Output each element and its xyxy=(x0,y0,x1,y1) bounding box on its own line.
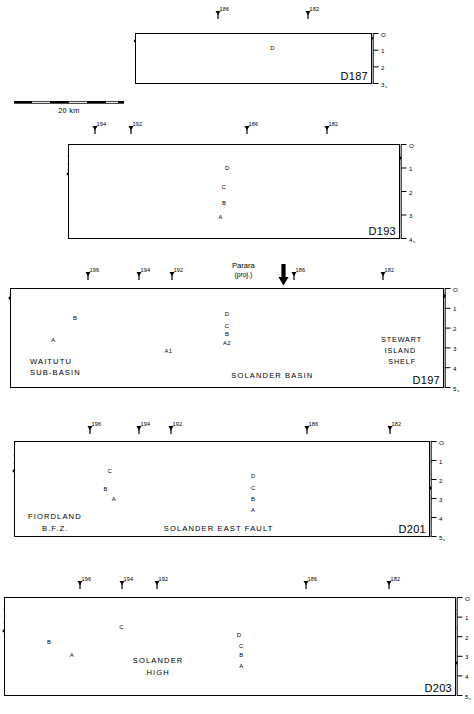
panel-frame xyxy=(4,597,456,696)
station-number: 182 xyxy=(392,421,402,427)
unit-label-B2: B xyxy=(225,331,229,337)
station-number: 186 xyxy=(308,576,318,582)
station-pin-icon xyxy=(169,426,174,434)
station-pin-icon xyxy=(88,426,93,434)
unit-label-A2: A xyxy=(239,663,243,669)
station-marker-194: 194 xyxy=(137,272,142,280)
figure-caption xyxy=(6,706,472,714)
unit-label-C: C xyxy=(107,468,112,474)
unit-label-B: B xyxy=(73,315,77,321)
unit-label-C2: C xyxy=(239,643,244,649)
station-marker-186: 186 xyxy=(216,11,221,19)
station-number: 192 xyxy=(173,421,183,427)
station-pin-icon xyxy=(381,272,386,280)
station-pin-icon xyxy=(129,126,134,134)
axis-ticks xyxy=(456,597,466,696)
station-marker-194: 194 xyxy=(120,581,125,589)
station-pin-icon xyxy=(388,426,393,434)
panel-frame xyxy=(135,33,372,84)
station-number: 196 xyxy=(82,576,92,582)
station-marker-194: 194 xyxy=(93,126,98,134)
unit-label-A: A xyxy=(219,214,223,220)
station-marker-182: 182 xyxy=(388,426,393,434)
station-number: 182 xyxy=(391,576,401,582)
station-marker-186: 186 xyxy=(245,126,250,134)
station-marker-186: 186 xyxy=(304,581,309,589)
station-marker-182: 182 xyxy=(387,581,392,589)
unit-label-B2: B xyxy=(251,496,255,502)
axis-unit-seconds: s xyxy=(413,238,415,243)
station-marker-192: 192 xyxy=(169,426,174,434)
station-number: 186 xyxy=(296,267,306,273)
station-number: 192 xyxy=(133,121,143,127)
station-pin-icon xyxy=(306,11,311,19)
depth-axis-D197: O12345s xyxy=(444,288,472,388)
panel-frame xyxy=(68,144,400,239)
unit-label-A: A xyxy=(112,496,116,502)
label-waitutu-line2: SUB-BASIN xyxy=(30,367,81,378)
station-pin-icon xyxy=(304,581,309,589)
unit-label-C: C xyxy=(222,184,227,190)
depth-axis-D187: O123s xyxy=(372,33,400,84)
unit-label-C: C xyxy=(119,624,124,630)
label-solander-basin: SOLANDER BASIN xyxy=(231,370,313,381)
unit-label-B: B xyxy=(222,200,226,206)
parara-label-line2: (proj.) xyxy=(235,271,253,278)
label-stewart-line2: ISLAND xyxy=(385,346,416,356)
station-pin-icon xyxy=(292,272,297,280)
station-marker-186: 186 xyxy=(292,272,297,280)
unit-label-D: D xyxy=(225,311,230,317)
unit-label-C2: C xyxy=(251,485,256,491)
section-panel-D193: D C B A D193 xyxy=(68,144,400,239)
panel-id-D201: D201 xyxy=(399,523,427,535)
station-number: 194 xyxy=(141,267,151,273)
label-fiordland-line1: FIORDLAND xyxy=(28,511,82,522)
station-number: 182 xyxy=(310,6,320,12)
station-marker-196: 196 xyxy=(88,426,93,434)
axis-unit-seconds: s xyxy=(443,536,445,541)
section-panel-D187: D D187 xyxy=(135,33,372,84)
axis-unit-seconds: s xyxy=(469,695,471,700)
scale-bar: 20 km xyxy=(14,101,124,117)
unit-label-A2: A xyxy=(251,507,255,513)
station-number: 192 xyxy=(174,267,184,273)
unit-label-D: D xyxy=(225,165,230,171)
station-number: 196 xyxy=(90,267,100,273)
station-pin-icon xyxy=(170,272,175,280)
station-pin-icon xyxy=(216,11,221,19)
axis-ticks xyxy=(372,33,382,84)
label-solander-high-line1: SOLANDER xyxy=(133,655,184,666)
label-fiordland-line2: B.F.Z. xyxy=(42,523,68,534)
label-stewart-line3: SHELF xyxy=(388,357,416,367)
depth-axis-D201: O12345s xyxy=(430,441,458,537)
down-arrow-icon xyxy=(278,264,289,286)
parara-label-line1: Parara xyxy=(232,261,255,270)
depth-axis-D193: O1234s xyxy=(400,144,428,239)
station-pin-icon xyxy=(120,581,125,589)
panel-id-D193: D193 xyxy=(369,225,397,237)
station-marker-192: 192 xyxy=(129,126,134,134)
unit-label-D2: D xyxy=(251,473,256,479)
axis-unit-seconds: s xyxy=(457,387,459,392)
axis-ticks xyxy=(430,441,440,537)
station-marker-182: 182 xyxy=(325,126,330,134)
axis-unit-seconds: s xyxy=(385,83,387,88)
unit-label-D: D xyxy=(270,45,275,51)
label-solander-east-fault: SOLANDER EAST FAULT xyxy=(164,523,274,534)
axis-ticks xyxy=(444,288,454,388)
panel-id-D187: D187 xyxy=(341,70,369,82)
label-stewart-line1: STEWART xyxy=(381,335,422,345)
station-marker-194: 194 xyxy=(137,426,142,434)
station-number: 192 xyxy=(159,576,169,582)
station-pin-icon xyxy=(137,426,142,434)
station-number: 182 xyxy=(329,121,339,127)
unit-label-B: B xyxy=(103,486,107,492)
section-panel-D197: B A A1 A2 D C B WAITUTU SUB-BASIN SOLAND… xyxy=(10,288,444,388)
unit-label-D2: D xyxy=(237,632,242,638)
station-number: 196 xyxy=(92,421,102,427)
station-marker-186: 186 xyxy=(305,426,310,434)
station-pin-icon xyxy=(305,426,310,434)
label-waitutu-line1: WAITUTU xyxy=(30,356,72,367)
station-marker-196: 196 xyxy=(78,581,83,589)
station-pin-icon xyxy=(325,126,330,134)
